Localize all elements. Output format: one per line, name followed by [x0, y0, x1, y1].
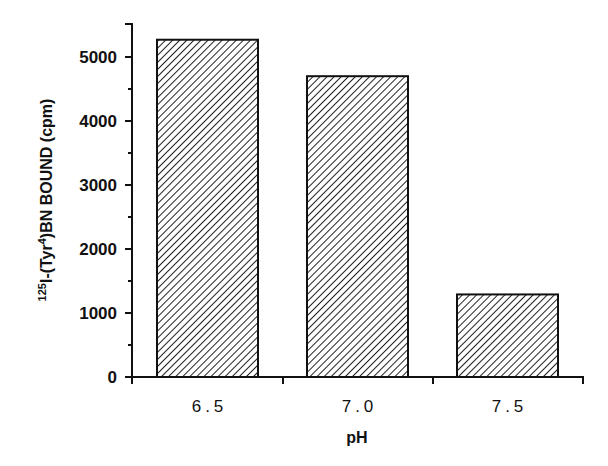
x-ticks: 6.57.07.5	[132, 376, 583, 416]
bar-7.5	[457, 294, 558, 377]
x-tick-label: 7.5	[492, 397, 528, 416]
y-tick-label: 1000	[79, 304, 117, 323]
y-axis-title-sup1: 125	[36, 283, 48, 301]
bar-chart: 010002000300040005000 6.57.07.5 pH 125I-…	[0, 0, 608, 466]
y-tick-label: 0	[108, 368, 117, 387]
bar-6.5	[157, 40, 258, 377]
x-tick-label: 6.5	[192, 397, 228, 416]
y-tick-label: 5000	[79, 48, 117, 67]
y-ticks: 010002000300040005000	[79, 48, 133, 387]
y-axis-title-part-a: I-(Tyr	[38, 244, 55, 283]
y-axis-title-part-b: )BN BOUND (cpm)	[38, 99, 55, 239]
y-tick-label: 2000	[79, 240, 117, 259]
bars	[157, 40, 558, 377]
x-tick-label: 7.0	[342, 397, 378, 416]
y-axis-title: 125I-(Tyr4)BN BOUND (cpm)	[36, 99, 55, 302]
y-tick-label: 3000	[79, 176, 117, 195]
bar-7.0	[307, 76, 408, 377]
y-tick-label: 4000	[79, 112, 117, 131]
x-axis-title: pH	[346, 429, 367, 446]
